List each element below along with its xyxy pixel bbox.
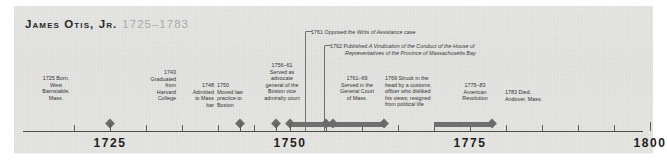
event-1761-line-2: General Court	[333, 88, 381, 95]
event-stem-1750	[290, 123, 291, 132]
callout-1761-italic-title: Writs of Assistance	[357, 29, 403, 35]
callout-1762-italic-line1: A Vindication of the Conduct of the Hous…	[369, 43, 475, 49]
event-label-1750: 1750 Moved law practice to Boston	[217, 82, 261, 108]
event-span-1775-1783	[434, 122, 492, 127]
axis-label-1750: 1750	[273, 136, 306, 150]
event-label-1761-69: 1761–69 Served in the General Court of M…	[333, 75, 381, 101]
callout-1761-lead: Opposed the	[325, 29, 357, 35]
event-label-1725: 1725 Born, West Barnstable, Mass.	[28, 75, 84, 101]
page-title: James Otis, Jr.1725–1783	[25, 14, 189, 32]
callout-1762-italic-line2: Representatives of the Province of Massa…	[345, 50, 476, 56]
axis-tick-1785	[542, 125, 543, 131]
callout-1761: 1761 Opposed the Writs of Assistance cas…	[311, 29, 415, 36]
event-label-1769: 1769 Struck in the head by a customs off…	[385, 75, 447, 108]
axis-tick-major-1800	[650, 122, 651, 131]
event-label-1775-83: 1775–83 American Revolution	[453, 82, 497, 102]
title-person-name: James Otis, Jr.	[25, 18, 117, 30]
axis-label-1775: 1775	[453, 136, 486, 150]
axis-tick-1795	[614, 125, 615, 131]
event-label-1783: 1783 Died, Andover, Mass.	[505, 89, 565, 102]
event-label-1743: 1743 Graduated from Harvard College	[128, 69, 176, 102]
event-label-1748: 1748 Admitted to Mass bar	[178, 82, 214, 108]
timeline-axis	[23, 131, 643, 132]
axis-label-1725: 1725	[93, 136, 126, 150]
axis-label-1800: 1800	[633, 136, 666, 150]
event-1756-line-5: admiralty court	[258, 95, 306, 102]
axis-tick-1790	[578, 125, 579, 131]
title-life-dates: 1725–1783	[122, 18, 189, 30]
event-1748-line-3: bar	[178, 102, 214, 109]
event-stem-1743	[240, 123, 241, 132]
timeline-figure: James Otis, Jr.1725–1783 1761 Opposed th…	[0, 0, 667, 162]
callout-1761-leader-line	[305, 31, 312, 132]
event-stem-1725	[110, 123, 111, 132]
axis-tick-1765	[398, 125, 399, 131]
event-label-1756-61: 1756–61 Served as advocate general of th…	[258, 62, 306, 101]
event-1775-line-2: Revolution	[453, 95, 497, 102]
axis-tick-1780	[506, 125, 507, 131]
event-1743-line-4: College	[128, 95, 176, 102]
callout-1762-line1: 1762 Published A Vindication of the Cond…	[330, 43, 476, 50]
callout-1762-line2: Representatives of the Province of Massa…	[330, 50, 476, 57]
axis-tick-1735	[182, 125, 183, 131]
event-1783-line-1: Andover, Mass.	[505, 96, 565, 103]
event-1725-line-3: Mass.	[28, 95, 84, 102]
callout-1761-year: 1761	[311, 29, 323, 35]
callout-1762-year: 1762	[330, 43, 342, 49]
callout-1762: 1762 Published A Vindication of the Cond…	[330, 43, 476, 56]
callout-1761-tail: case	[403, 29, 416, 35]
event-1750-line-3: Boston	[217, 102, 261, 109]
event-stem-1748	[276, 123, 277, 132]
axis-tick-1730	[146, 125, 147, 131]
event-1769-line-4: from political life	[385, 101, 447, 108]
event-1761-line-3: of Mass.	[333, 95, 381, 102]
axis-tick-1740	[218, 125, 219, 131]
callout-1762-lead: Published	[344, 43, 369, 49]
axis-tick-1720	[74, 125, 75, 131]
panel-bottom-edge	[14, 152, 653, 154]
axis-tick-1745	[254, 125, 255, 131]
